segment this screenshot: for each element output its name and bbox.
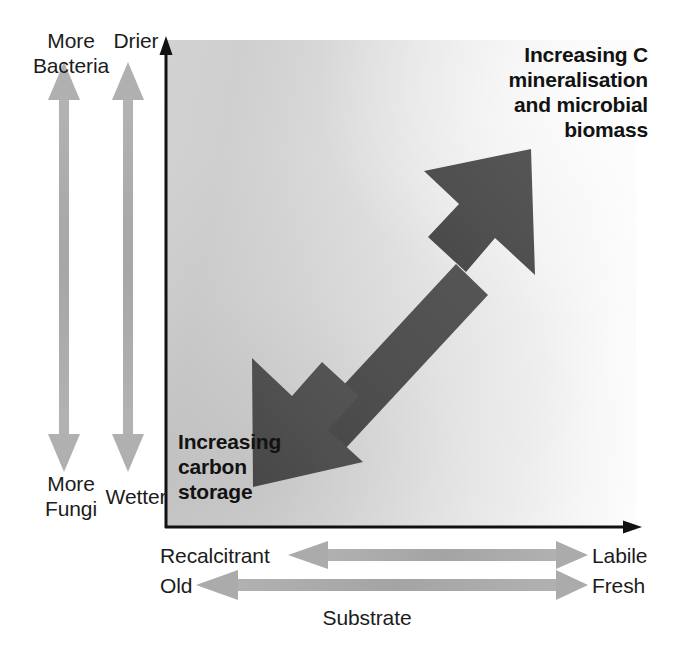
label-drier: Drier bbox=[100, 28, 172, 53]
label-fresh: Fresh bbox=[592, 573, 672, 598]
label-increasing-c-mineralisation: Increasing C mineralisation and microbia… bbox=[388, 42, 648, 142]
label-labile: Labile bbox=[592, 543, 672, 568]
recalcitrant-labile-arrow-icon bbox=[288, 541, 588, 569]
label-old: Old bbox=[160, 573, 290, 598]
label-wetter: Wetter bbox=[100, 484, 172, 509]
label-increasing-carbon-storage: Increasing carbon storage bbox=[178, 429, 378, 504]
moisture-arrow-icon bbox=[112, 62, 144, 472]
label-substrate-axis-title: Substrate bbox=[287, 605, 447, 630]
soil-carbon-conceptual-diagram: More Bacteria Drier More Fungi Wetter In… bbox=[0, 0, 674, 652]
label-recalcitrant: Recalcitrant bbox=[160, 543, 290, 568]
bacteria-fungi-arrow-icon bbox=[48, 62, 80, 472]
